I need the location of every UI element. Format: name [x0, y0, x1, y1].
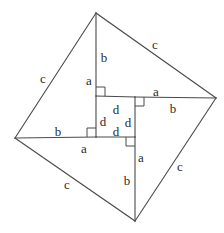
outer-edge-bottom-left [15, 138, 135, 221]
triangle-legs [15, 13, 216, 221]
right-angle-marker-bottom-right [126, 137, 135, 146]
inner-edge-top [96, 96, 135, 97]
label-a-left: a [81, 142, 87, 155]
label-a-right: a [153, 85, 159, 98]
geometry-figure: c c c c b a a b a b b a d d d d [0, 0, 224, 233]
label-d-north: d [113, 103, 120, 116]
outer-square [15, 13, 216, 221]
label-c-bottom-left: c [64, 178, 70, 191]
figure-canvas [0, 0, 224, 233]
outer-edge-bottom-right [135, 98, 216, 221]
label-b-left: b [55, 125, 62, 138]
label-a-top: a [86, 74, 92, 87]
leg-right-horizontal [135, 97, 216, 98]
label-b-bottom: b [124, 174, 131, 187]
label-c-top-right: c [152, 38, 158, 51]
label-a-bottom: a [138, 151, 144, 164]
outer-edge-top-left [15, 13, 96, 138]
label-b-top: b [101, 51, 108, 64]
label-b-right: b [170, 102, 177, 115]
right-angle-marker-bottom-left [87, 128, 96, 137]
label-d-east: d [125, 116, 132, 129]
label-c-bottom-right: c [177, 160, 183, 173]
label-c-top-left: c [40, 72, 46, 85]
label-d-west: d [100, 115, 107, 128]
right-angle-marker-top-left [96, 87, 105, 96]
label-d-south: d [113, 125, 120, 138]
right-angle-marker-top-right [135, 97, 144, 106]
